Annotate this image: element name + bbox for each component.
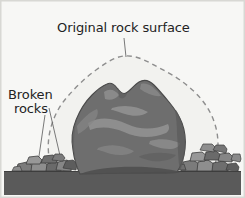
label-original-rock-surface: Original rock surface — [57, 21, 190, 35]
ground-surface — [4, 171, 241, 195]
rock-fragment — [218, 153, 233, 162]
label-broken-rocks: Brokenrocks — [8, 88, 53, 116]
label-broken-rocks-line1: Broken — [8, 87, 53, 102]
label-broken-rocks-line2: rocks — [8, 102, 53, 116]
rock-weathering-diagram: Original rock surface Brokenrocks — [0, 0, 245, 198]
rock-fragment — [226, 163, 239, 171]
